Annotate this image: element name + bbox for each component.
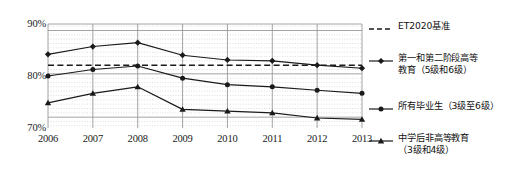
x-tick-label-2009: 2009 xyxy=(160,133,206,144)
data-point xyxy=(269,58,275,64)
legend-label: 第一和第二阶段高等 教育（5级和6级） xyxy=(398,52,478,76)
data-point xyxy=(90,43,96,49)
line-chart: 90% 80% 70% 2006200720082009201020112012… xyxy=(0,0,519,170)
legend-item-1[interactable]: 第一和第二阶段高等 教育（5级和6级） xyxy=(368,52,478,76)
legend-label: 中学后非高等教育 （3级和4级） xyxy=(398,132,469,156)
data-point xyxy=(315,88,320,93)
data-series-layer xyxy=(48,24,362,128)
data-point xyxy=(360,91,365,96)
x-tick-label-2010: 2010 xyxy=(204,133,250,144)
y-tick-label-70: 70% xyxy=(2,123,46,133)
legend-item-0[interactable]: ET2020基准 xyxy=(368,20,450,33)
data-point xyxy=(135,40,141,46)
y-axis: 90% 80% 70% xyxy=(0,0,46,170)
legend-label: ET2020基准 xyxy=(398,20,450,32)
data-point xyxy=(135,64,140,69)
data-point xyxy=(46,74,51,79)
y-tick-label-80: 80% xyxy=(2,71,46,81)
data-point xyxy=(225,82,230,87)
x-tick-label-2006: 2006 xyxy=(25,133,71,144)
triangle-marker xyxy=(368,133,394,145)
x-tick-label-2008: 2008 xyxy=(115,133,161,144)
data-point xyxy=(314,62,320,68)
y-tick-label-90: 90% xyxy=(2,19,46,29)
legend-label: 所有毕业生（3级至6级） xyxy=(398,100,499,112)
data-point xyxy=(224,57,230,63)
data-point xyxy=(90,67,95,72)
data-point xyxy=(135,84,141,90)
circle-marker xyxy=(368,101,394,113)
data-point xyxy=(270,84,275,89)
plot-area xyxy=(48,24,362,128)
x-tick-label-2011: 2011 xyxy=(249,133,295,144)
dashed-line-marker xyxy=(368,21,394,33)
data-point xyxy=(179,52,185,58)
legend-item-3[interactable]: 中学后非高等教育 （3级和4级） xyxy=(368,132,469,156)
data-point xyxy=(180,76,185,81)
x-tick-label-2012: 2012 xyxy=(294,133,340,144)
data-point xyxy=(359,65,365,71)
series-line-3 xyxy=(48,87,362,120)
x-axis: 20062007200820092010201120122013 xyxy=(48,131,362,153)
diamond-marker xyxy=(368,53,394,65)
x-tick-label-2007: 2007 xyxy=(70,133,116,144)
legend-item-2[interactable]: 所有毕业生（3级至6级） xyxy=(368,100,499,113)
